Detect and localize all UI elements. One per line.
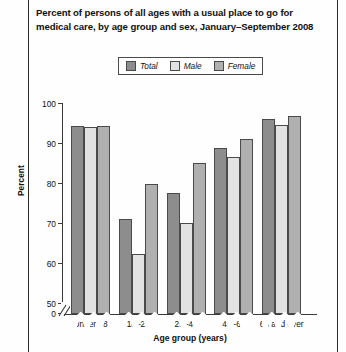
chart-page: Percent of persons of all ages with a us… [0,0,346,352]
chart-title-line-2: medical care, by age group and sex, Janu… [36,20,332,34]
bar-group: Under 18 [71,126,110,314]
legend-label: Female [228,61,256,71]
legend-swatch-icon [126,61,136,71]
y-axis-tick [58,183,63,184]
page-border-right [337,0,338,352]
bar-total [214,148,227,314]
legend-item-female: Female [214,61,256,71]
legend-label: Male [184,61,202,71]
bar-total [167,193,180,314]
x-axis-title: Age group (years) [63,333,317,343]
bar-female [97,126,110,314]
bar-female [288,116,301,314]
legend-item-male: Male [170,61,202,71]
y-axis-tick-label: 80 [47,179,56,189]
bar-group: 65 and over [262,116,301,314]
bar-group: 25–44 [167,163,206,314]
bar-male [180,223,193,314]
y-axis-tick-label: 60 [47,259,56,269]
bar-total [71,126,84,314]
x-axis-category-label: Under 18 [73,319,107,329]
legend-swatch-icon [214,61,224,71]
y-axis-tick [58,303,63,304]
bar-total [119,219,132,314]
y-axis-break-icon [57,302,70,320]
bar-male [227,157,240,314]
y-axis-tick-label: 0 [51,309,56,319]
chart-legend: TotalMaleFemale [118,57,263,75]
legend-item-total: Total [126,61,158,71]
y-axis-tick [58,313,63,314]
bar-male [84,127,97,314]
x-axis-category-label: 65 and over [260,319,304,329]
bar-group: 45–64 [214,139,253,314]
chart-title: Percent of persons of all ages with a us… [36,6,332,33]
y-axis-tick-label: 70 [47,219,56,229]
plot-area: Age group (years) 50607080901000Under 18… [62,103,317,315]
legend-swatch-icon [170,61,180,71]
bar-male [275,125,288,314]
y-axis-tick [58,103,63,104]
bar-male [132,254,145,314]
bar-group: 18–24 [119,184,158,314]
legend-label: Total [140,61,158,71]
y-axis-tick [58,263,63,264]
bar-female [240,139,253,314]
bar-female [145,184,158,314]
y-axis-title: Percent [16,165,26,196]
x-axis-category-label: 18–24 [127,319,150,329]
x-axis-category-label: 45–64 [222,319,245,329]
y-axis-tick-label: 50 [47,299,56,309]
y-axis-tick-label: 90 [47,139,56,149]
y-axis-tick-label: 100 [42,99,56,109]
bar-female [193,163,206,314]
y-axis-tick [58,143,63,144]
page-border-left [28,0,29,352]
chart-title-line-1: Percent of persons of all ages with a us… [36,6,332,20]
x-axis-category-label: 25–44 [175,319,198,329]
y-axis-tick [58,223,63,224]
bar-total [262,119,275,314]
